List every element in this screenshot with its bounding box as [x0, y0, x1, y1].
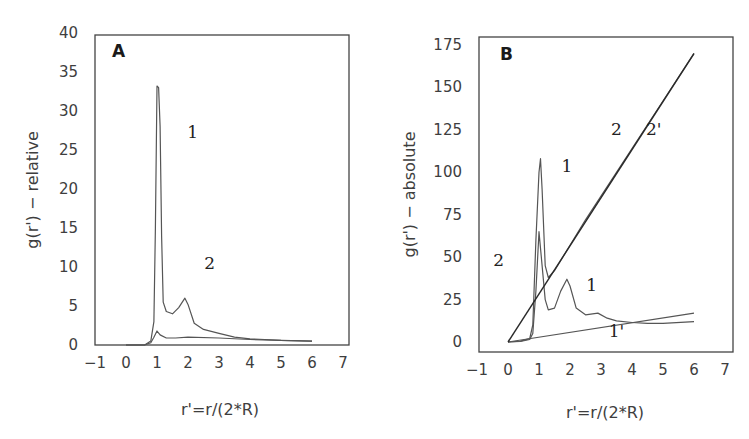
y-tick-label: 0: [68, 336, 78, 354]
x-axis-title: r'=r/(2*R): [566, 403, 644, 422]
y-tick-label: 15: [59, 219, 78, 237]
plot-frame: [95, 35, 349, 345]
x-tick-label: −1: [466, 361, 488, 379]
curve-label: 1: [586, 275, 597, 295]
curve-label: 2': [646, 119, 662, 139]
y-tick-label: 20: [59, 180, 78, 198]
y-tick-label: 75: [443, 206, 462, 224]
x-tick-label: 6: [689, 361, 699, 379]
plot-frame: [479, 37, 733, 352]
x-tick-label: 2: [565, 361, 575, 379]
x-axis-title: r'=r/(2*R): [181, 400, 259, 419]
y-tick-label: 0: [452, 333, 462, 351]
series-2-prime: [508, 54, 694, 343]
x-tick-label: 3: [214, 354, 224, 372]
x-tick-label: 1: [152, 354, 162, 372]
x-tick-label: −1: [84, 354, 106, 372]
y-tick-label: 125: [433, 121, 462, 139]
y-tick-label: 40: [59, 24, 78, 42]
y-tick-label: 175: [433, 36, 462, 54]
x-tick-label: 5: [658, 361, 668, 379]
series-1: [126, 86, 312, 345]
curve-label: 2: [493, 250, 504, 270]
x-tick-label: 5: [276, 354, 286, 372]
x-tick-label: 6: [307, 354, 317, 372]
panel-letter: A: [112, 41, 126, 61]
x-tick-label: 4: [245, 354, 255, 372]
y-tick-label: 150: [433, 78, 462, 96]
y-axis-ticks: 0510152025303540: [59, 24, 78, 354]
x-axis-ticks: −101234567: [466, 361, 730, 379]
panel-b-chart: 0255075100125150175−101234567g(r') − abs…: [400, 36, 733, 422]
panel-a-chart: 0510152025303540−101234567g(r') − relati…: [23, 24, 349, 419]
x-tick-label: 7: [338, 354, 348, 372]
y-tick-label: 25: [443, 291, 462, 309]
curve-label: 1: [561, 156, 572, 176]
y-tick-label: 5: [68, 297, 78, 315]
curve-label: 1': [609, 321, 625, 341]
panel-letter: B: [500, 44, 513, 64]
x-tick-label: 2: [183, 354, 193, 372]
y-axis-title: g(r') − absolute: [400, 132, 419, 258]
x-axis-ticks: −101234567: [84, 354, 348, 372]
x-tick-label: 0: [121, 354, 131, 372]
curve-label: 1: [187, 122, 198, 142]
y-tick-label: 35: [59, 63, 78, 81]
x-tick-label: 4: [627, 361, 637, 379]
curve-label: 2: [204, 253, 215, 273]
y-tick-label: 10: [59, 258, 78, 276]
y-tick-label: 50: [443, 248, 462, 266]
x-tick-label: 1: [534, 361, 544, 379]
y-tick-label: 100: [433, 163, 462, 181]
y-axis-ticks: 0255075100125150175: [433, 36, 462, 351]
y-tick-label: 30: [59, 102, 78, 120]
y-axis-title: g(r') − relative: [23, 131, 42, 249]
curve-label: 2: [611, 119, 622, 139]
x-tick-label: 0: [503, 361, 513, 379]
x-tick-label: 7: [720, 361, 730, 379]
series-1-prime: [508, 313, 694, 342]
x-tick-label: 3: [596, 361, 606, 379]
figure: 0510152025303540−101234567g(r') − relati…: [0, 0, 749, 439]
y-tick-label: 25: [59, 141, 78, 159]
